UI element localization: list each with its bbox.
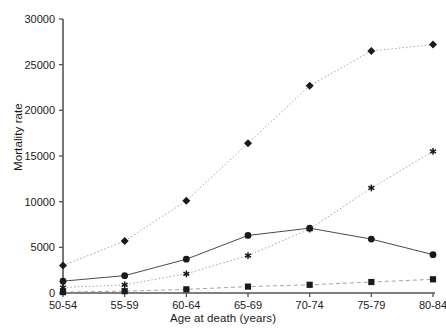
x-tick-label: 60-64 [172, 299, 200, 311]
y-axis-title: Mortality rate [12, 103, 24, 171]
series-square-marker [368, 279, 374, 285]
series-diamond-marker [59, 262, 67, 270]
y-tick-label: 25000 [24, 59, 55, 71]
series-diamond-marker [121, 237, 129, 245]
series-circle-marker [121, 272, 128, 279]
data-series-group [59, 41, 437, 296]
x-tick-label: 50-54 [49, 299, 77, 311]
y-tick-label: 0 [49, 287, 55, 299]
series-square-marker [60, 289, 66, 295]
y-tick-label: 15000 [24, 150, 55, 162]
series-square-marker [245, 284, 251, 290]
y-tick-label: 20000 [24, 104, 55, 116]
series-diamond-marker [244, 139, 252, 147]
series-asterisk-marker [245, 252, 251, 259]
series-circle-marker [430, 251, 437, 258]
x-tick-label: 70-74 [296, 299, 324, 311]
series-circle-marker [60, 278, 67, 285]
plot-area: 050001000015000200002500030000 50-5455-5… [0, 0, 446, 334]
x-axis: 50-5455-5960-6465-6970-7475-7980-84 [49, 293, 446, 311]
y-tick-label: 10000 [24, 196, 55, 208]
series-square-marker [430, 276, 436, 282]
series-diamond-marker [182, 197, 190, 205]
x-axis-title: Age at death (years) [170, 312, 276, 324]
series-asterisk [60, 148, 436, 291]
series-diamond-marker [429, 41, 437, 49]
x-tick-label: 55-59 [111, 299, 139, 311]
series-asterisk-marker [430, 148, 436, 155]
series-asterisk-marker [368, 185, 374, 192]
mortality-rate-line-chart: 050001000015000200002500030000 50-5455-5… [0, 0, 446, 334]
series-circle-marker [368, 236, 375, 243]
series-circle-marker [245, 232, 252, 239]
x-tick-label: 65-69 [234, 299, 262, 311]
x-tick-label: 80-84 [419, 299, 446, 311]
series-square-marker [307, 282, 313, 288]
series-asterisk-line [63, 151, 433, 287]
series-square-marker [122, 288, 128, 294]
x-tick-label: 75-79 [357, 299, 385, 311]
y-tick-label: 30000 [24, 13, 55, 25]
series-diamond-marker [367, 47, 375, 55]
y-tick-label: 5000 [31, 241, 55, 253]
series-square-marker [183, 286, 189, 292]
series-circle-marker [183, 256, 190, 263]
y-axis: 050001000015000200002500030000 [24, 13, 63, 299]
